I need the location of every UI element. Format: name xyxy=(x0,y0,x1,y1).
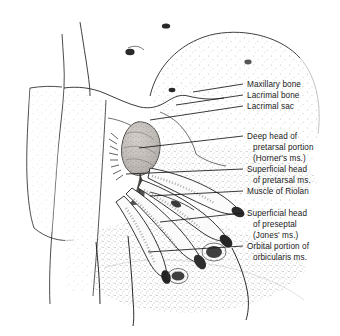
label-superficial-head-pretarsal-line-0: Superficial head xyxy=(247,165,311,176)
label-orbital-portion-orbicularis: Orbital portion oforbicularis ms. xyxy=(247,242,309,264)
figure-canvas: Maxillary boneLacrimal boneLacrimal sacD… xyxy=(0,0,340,336)
label-muscle-of-riolan: Muscle of Riolan xyxy=(247,187,309,198)
label-superficial-head-preseptal-jones-line-1: of preseptal xyxy=(247,220,307,231)
label-superficial-head-preseptal-jones-line-0: Superficial head xyxy=(247,209,307,220)
label-superficial-head-pretarsal-line-1: of pretarsal ms. xyxy=(247,176,311,187)
label-lacrimal-sac: Lacrimal sac xyxy=(247,102,294,113)
label-orbital-portion-orbicularis-line-0: Orbital portion of xyxy=(247,242,309,253)
label-muscle-of-riolan-line-0: Muscle of Riolan xyxy=(247,187,309,198)
label-lacrimal-sac-line-0: Lacrimal sac xyxy=(247,102,294,113)
label-lacrimal-bone-line-0: Lacrimal bone xyxy=(247,91,300,102)
label-deep-head-pretarsal-horner-line-1: pretarsal portion xyxy=(247,143,314,154)
label-deep-head-pretarsal-horner-line-0: Deep head of xyxy=(247,132,314,143)
label-orbital-portion-orbicularis-line-1: orbicularis ms. xyxy=(247,253,309,264)
label-superficial-head-preseptal-jones-line-2: (Jones' ms.) xyxy=(247,231,307,242)
label-superficial-head-pretarsal: Superficial headof pretarsal ms. xyxy=(247,165,311,187)
label-superficial-head-preseptal-jones: Superficial headof preseptal(Jones' ms.) xyxy=(247,209,307,242)
label-lacrimal-bone: Lacrimal bone xyxy=(247,91,300,102)
label-maxillary-bone-line-0: Maxillary bone xyxy=(247,80,301,91)
label-deep-head-pretarsal-horner-line-2: (Horner's ms.) xyxy=(247,154,314,165)
label-maxillary-bone: Maxillary bone xyxy=(247,80,301,91)
label-deep-head-pretarsal-horner: Deep head ofpretarsal portion(Horner's m… xyxy=(247,132,314,165)
